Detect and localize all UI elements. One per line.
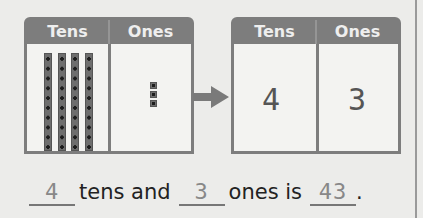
total-answer-blank[interactable]: 43 [310, 170, 356, 206]
ones-digit: 3 [348, 82, 366, 117]
tens-answer: 4 [29, 179, 75, 204]
place-value-chart-blocks: Tens Ones [24, 17, 194, 154]
ones-answer: 3 [179, 179, 225, 204]
tens-rod-icon [71, 53, 79, 151]
column-divider [108, 44, 111, 151]
answer-sentence: 4 tens and 3 ones is 43 . [25, 166, 363, 206]
page-edge-line [415, 0, 417, 218]
total-answer: 43 [310, 179, 356, 204]
tens-header: Tens [27, 20, 110, 44]
ones-header: Ones [317, 20, 398, 44]
ones-cube-icon [150, 100, 157, 107]
chart-header: Tens Ones [27, 20, 191, 44]
tens-header: Tens [234, 20, 317, 44]
ones-answer-blank[interactable]: 3 [179, 170, 225, 206]
sentence-text-ones-is: ones is [229, 180, 302, 206]
tens-rod-icon [85, 53, 93, 151]
ones-cube-icon [150, 91, 157, 98]
chart-header: Tens Ones [234, 20, 398, 44]
column-divider [316, 44, 319, 151]
tens-answer-blank[interactable]: 4 [29, 170, 75, 206]
ones-cube-icon [150, 82, 157, 89]
place-value-chart-digits: Tens Ones 4 3 [231, 17, 401, 154]
tens-digit: 4 [262, 82, 280, 117]
right-arrow-icon [193, 86, 229, 108]
ones-header: Ones [110, 20, 191, 44]
sentence-period: . [356, 180, 363, 206]
tens-rod-icon [58, 53, 66, 151]
tens-rod-icon [44, 53, 52, 151]
sentence-text-tens-and: tens and [79, 180, 171, 206]
